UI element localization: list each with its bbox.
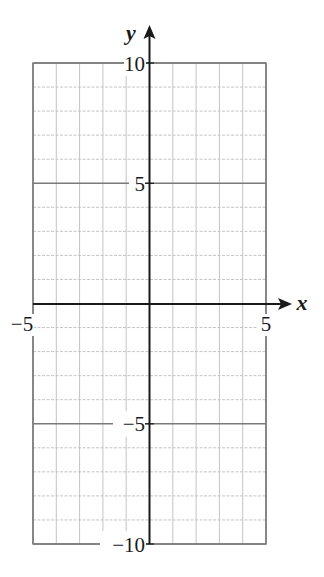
- x-tick-label-neg5: −5: [11, 312, 33, 336]
- x-tick-label-5: 5: [261, 312, 272, 336]
- x-axis-label: x: [296, 290, 308, 315]
- y-tick-label-neg5: −5: [123, 412, 145, 436]
- coordinate-grid-chart: 10 5 −5 −10 −5 5 y x: [0, 0, 324, 577]
- y-tick-label-neg10: −10: [112, 533, 145, 557]
- y-axis-label: y: [123, 20, 136, 45]
- y-tick-label-10: 10: [124, 52, 145, 76]
- y-tick-label-5: 5: [135, 172, 146, 196]
